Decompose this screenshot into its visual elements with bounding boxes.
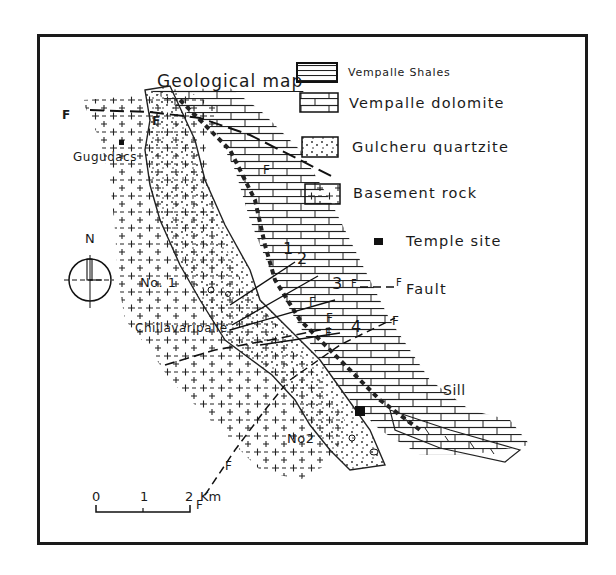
legend-swatch-basement: [305, 184, 340, 204]
legend-label-shales: Vempalle Shales: [348, 67, 451, 78]
scale-unit: Km: [200, 490, 221, 503]
fault-mark: F: [225, 460, 232, 472]
scale-tick-2: 2: [185, 490, 193, 503]
compass-north-label: N: [85, 232, 95, 245]
temple-site-marker: [355, 406, 365, 416]
fault-mark: F: [326, 312, 333, 324]
legend-label-basement: Basement rock: [353, 186, 477, 201]
north-arrow-compass: [64, 255, 114, 308]
fault-mark: F: [392, 315, 399, 327]
legend-label-dolomite: Vempalle dolomite: [349, 96, 505, 111]
legend-label-quartzite: Gulcheru quartzite: [352, 140, 509, 155]
scale-tick-1: 1: [140, 490, 148, 503]
fault-mark: F: [325, 327, 332, 339]
section-label-3: 3: [332, 276, 342, 292]
place-label-sill: Sill: [443, 383, 466, 397]
fault-mark: F: [62, 109, 71, 121]
section-label-4: 4: [351, 319, 361, 335]
legend-swatch-dolomite: [300, 93, 338, 112]
legend-swatch-quartzite: [302, 137, 338, 157]
legend-label-fault: Fault: [406, 282, 447, 297]
fault-mark: F: [263, 164, 270, 176]
section-label-2: 2: [297, 251, 307, 267]
fault-legend-symbol-left: F: [351, 279, 357, 289]
scale-tick-0: 0: [92, 490, 100, 503]
map-title: Geological map: [157, 73, 303, 90]
scale-bar-graphic: [96, 505, 190, 512]
temple-site-marker-gugudacs: [119, 140, 124, 145]
place-label-chillavaripalle: Chillavaripalle: [135, 322, 228, 334]
place-label-no2: No2: [287, 432, 314, 445]
section-label-1: 1: [283, 241, 293, 257]
place-label-gugudacs: Gugudacs: [73, 151, 137, 163]
place-label-no1: No. 1: [140, 276, 177, 289]
legend-label-temple: Temple site: [406, 234, 502, 249]
fault-mark: F: [309, 296, 316, 308]
fault-mark: F: [152, 115, 161, 127]
fault-legend-symbol-right: F: [396, 278, 402, 288]
legend-swatch-temple: [374, 238, 383, 245]
